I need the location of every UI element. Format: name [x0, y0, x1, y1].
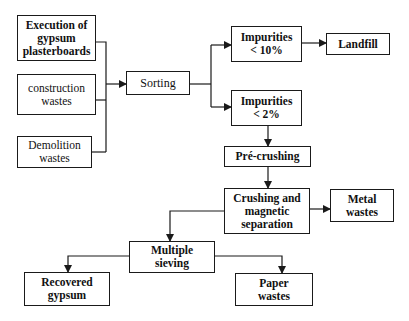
node-construction-wastes: construction wastes: [17, 74, 96, 115]
node-label-line: < 10%: [241, 44, 293, 57]
node-label-line: < 2%: [241, 108, 293, 121]
node-label-line: Recovered: [41, 276, 93, 289]
node-label-line: wastes: [28, 152, 80, 165]
node-label-line: Paper: [258, 277, 290, 290]
node-label-line: gypsum: [41, 289, 93, 302]
node-impurities-10: Impurities < 10%: [231, 26, 302, 62]
node-multiple-sieving: Multiple sieving: [129, 241, 215, 273]
node-label-line: Multiple: [151, 244, 193, 257]
node-metal-wastes: Metal wastes: [330, 189, 394, 222]
node-label-line: plasterboards: [23, 45, 91, 58]
node-landfill: Landfill: [326, 33, 390, 55]
node-label-line: construction: [28, 82, 85, 95]
node-execution-of-gypsum-plasterboards: Execution of gypsum plasterboards: [17, 15, 96, 61]
node-label-line: separation: [233, 218, 300, 231]
node-sorting: Sorting: [126, 71, 190, 95]
arrow-to-paper: [215, 256, 282, 273]
edge-execution-sorting: [96, 42, 106, 152]
node-label-line: Crushing and: [233, 192, 300, 205]
node-label-line: Impurities: [241, 95, 293, 108]
node-paper-wastes: Paper wastes: [235, 273, 313, 306]
node-label-line: Landfill: [338, 38, 378, 51]
node-recovered-gypsum: Recovered gypsum: [24, 272, 110, 306]
arrow-to-gypsum: [68, 256, 129, 272]
node-impurities-2: Impurities < 2%: [231, 90, 302, 126]
node-label-line: gypsum: [23, 32, 91, 45]
node-label-line: Sorting: [140, 77, 175, 90]
node-label-line: wastes: [258, 290, 290, 303]
node-label-line: wastes: [28, 95, 85, 108]
node-demolition-wastes: Demolition wastes: [17, 136, 92, 168]
arrow-to-sieving: [170, 211, 224, 241]
node-label-line: Impurities: [241, 31, 293, 44]
node-crushing-magnetic-separation: Crushing and magnetic separation: [224, 188, 310, 234]
node-label-line: wastes: [346, 206, 378, 219]
node-label-line: Execution of: [23, 19, 91, 32]
node-label-line: magnetic: [233, 205, 300, 218]
node-label-line: Demolition: [28, 139, 80, 152]
node-label-line: sieving: [151, 257, 193, 270]
node-label-line: Metal: [346, 193, 378, 206]
node-pre-crushing: Pré-crushing: [224, 146, 311, 167]
node-label-line: Pré-crushing: [236, 150, 300, 163]
